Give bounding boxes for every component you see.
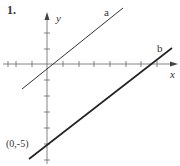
line-b-label: b: [157, 42, 163, 54]
y-intercept-label: (0,-5): [6, 138, 29, 150]
line-a: a: [22, 6, 123, 89]
y-axis-arrow-icon: [45, 12, 50, 20]
line-a-label: a: [104, 6, 109, 18]
line-b: b: [29, 42, 172, 159]
diagram-canvas: 1. x y a b (0,-5): [0, 0, 180, 166]
y-axis-label: y: [55, 12, 61, 24]
x-axis-label: x: [169, 68, 175, 80]
problem-number: 1.: [7, 3, 16, 17]
x-axis-arrow-icon: [170, 62, 178, 67]
